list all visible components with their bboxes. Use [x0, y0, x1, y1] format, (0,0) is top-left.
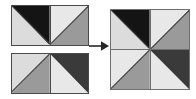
result-top-left-quadrant — [111, 10, 150, 49]
pinwheel-result-block — [110, 9, 190, 90]
result-top-right-quadrant — [151, 10, 190, 49]
top-source-right-square — [50, 6, 89, 45]
bottom-source-right-square — [50, 54, 89, 93]
result-bottom-right-quadrant — [151, 50, 190, 89]
figure-canvas — [0, 0, 196, 99]
right-arrow-icon — [89, 39, 109, 53]
top-source-rectangle — [11, 5, 89, 46]
result-bottom-left-quadrant — [111, 50, 150, 89]
bottom-source-rectangle — [11, 53, 89, 94]
bottom-source-left-square — [12, 54, 50, 93]
top-source-left-square — [12, 6, 50, 45]
